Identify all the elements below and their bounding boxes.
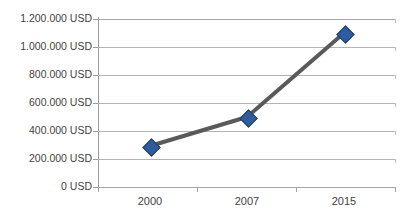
y-axis-label: 1.200.000 USD [0, 13, 92, 24]
plot-area [98, 19, 395, 187]
x-axis-label: 2007 [207, 195, 287, 208]
y-axis-label: 0 USD [0, 181, 92, 192]
x-axis-label: 2000 [110, 195, 190, 208]
gridline-endcap [395, 19, 396, 23]
y-axis-label: 1.000.000 USD [0, 41, 92, 52]
x-axis-line [98, 187, 396, 188]
gridline-endcap [395, 47, 396, 51]
x-axis-tick [296, 187, 297, 192]
y-axis-label: 200.000 USD [0, 153, 92, 164]
gridline [98, 159, 395, 160]
y-axis-label: 800.000 USD [0, 69, 92, 80]
gridline [98, 47, 395, 48]
x-axis-tick [197, 187, 198, 192]
x-axis-tick [98, 187, 99, 192]
y-axis-label: 400.000 USD [0, 125, 92, 136]
x-axis-label: 2015 [304, 195, 384, 208]
y-axis-label: 600.000 USD [0, 97, 92, 108]
gridline-endcap [395, 103, 396, 107]
gridline [98, 131, 395, 132]
gridline [98, 19, 395, 20]
gridline [98, 103, 395, 104]
line-chart: 1.200.000 USD 1.000.000 USD 800.000 USD … [0, 0, 404, 218]
chart-title [0, 0, 404, 2]
gridline-endcap [395, 159, 396, 163]
gridline-endcap [395, 75, 396, 79]
gridline-endcap [395, 131, 396, 135]
x-axis-tick [395, 187, 396, 192]
gridline [98, 75, 395, 76]
